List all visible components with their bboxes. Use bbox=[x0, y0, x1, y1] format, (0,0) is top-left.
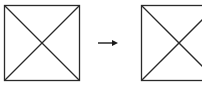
right-arrow-icon bbox=[98, 40, 118, 46]
right-square bbox=[142, 6, 203, 81]
left-square-with-diagonals bbox=[5, 6, 80, 81]
right-square-with-diagonals bbox=[142, 6, 203, 81]
right-diagonal-down bbox=[142, 6, 203, 81]
diagram-canvas bbox=[0, 0, 202, 87]
right-diagonal-up bbox=[142, 6, 203, 81]
